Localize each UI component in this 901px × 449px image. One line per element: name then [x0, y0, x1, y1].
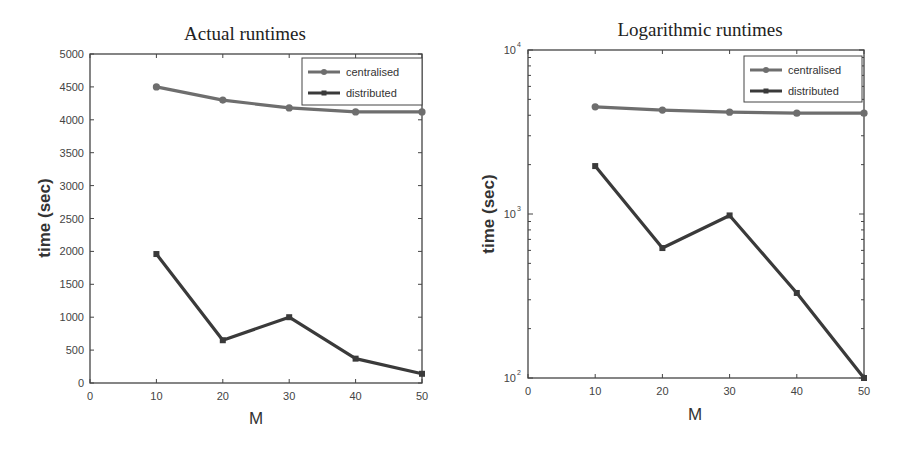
data-point [659, 245, 665, 251]
series-centralised [592, 103, 868, 116]
y-tick-exponent: 4 [517, 41, 521, 48]
x-tick-label: 0 [87, 390, 93, 402]
svg-text:centralised: centralised [346, 66, 399, 78]
y-tick-label: 0 [78, 377, 84, 389]
star-marker-icon [322, 91, 327, 96]
chart-title: Actual runtimes [184, 23, 306, 44]
y-tick-label: 1500 [60, 278, 84, 290]
data-point [286, 104, 293, 111]
x-axis-label: M [249, 409, 263, 428]
data-point [352, 108, 359, 115]
y-axis-label: time (sec) [35, 178, 54, 257]
data-point [726, 109, 733, 116]
star-marker-icon [764, 89, 769, 94]
x-tick-label: 30 [723, 385, 735, 397]
data-point [418, 108, 425, 115]
data-point [592, 163, 598, 169]
y-tick-label: 3000 [60, 180, 84, 192]
x-tick-label: 10 [150, 390, 162, 402]
data-point [860, 110, 867, 117]
data-point [153, 251, 159, 257]
data-point [286, 314, 292, 320]
series-distributed [592, 163, 867, 381]
y-axis-label: time (sec) [479, 174, 498, 253]
chart-title: Logarithmic runtimes [617, 19, 782, 40]
svg-text:distributed: distributed [346, 87, 397, 99]
y-tick-label: 2500 [60, 213, 84, 225]
x-tick-label: 50 [858, 385, 870, 397]
figure: Actual runtimes 010203040500500100015002… [0, 0, 901, 449]
data-point [419, 371, 425, 377]
data-point [219, 96, 226, 103]
x-axis-label: M [688, 405, 702, 424]
x-tick-label: 20 [217, 390, 229, 402]
svg-text:centralised: centralised [788, 64, 841, 76]
y-tick-label: 2000 [60, 245, 84, 257]
y-tick-label: 1000 [60, 311, 84, 323]
data-point [861, 375, 867, 381]
y-tick-label: 10 [504, 44, 516, 56]
x-tick-label: 40 [349, 390, 361, 402]
y-tick-label: 4500 [60, 81, 84, 93]
svg-text:distributed: distributed [788, 85, 839, 97]
legend: centralised distributed [744, 56, 862, 102]
y-tick-exponent: 2 [517, 369, 521, 376]
y-tick-label: 4000 [60, 114, 84, 126]
data-point [153, 83, 160, 90]
x-tick-label: 40 [791, 385, 803, 397]
y-tick-label: 3500 [60, 147, 84, 159]
data-point [794, 290, 800, 296]
panel-logarithmic-runtimes: Logarithmic runtimes 0102030405010210310… [479, 19, 870, 424]
x-tick-label: 0 [525, 385, 531, 397]
circle-marker-icon [321, 69, 327, 75]
data-point [793, 110, 800, 117]
series-distributed [153, 251, 425, 377]
y-tick-exponent: 3 [517, 205, 521, 212]
y-tick-label: 5000 [60, 48, 84, 60]
y-tick-label: 500 [66, 344, 84, 356]
panel-actual-runtimes: Actual runtimes 010203040500500100015002… [35, 23, 428, 428]
x-tick-label: 10 [589, 385, 601, 397]
data-point [353, 356, 359, 362]
data-point [659, 107, 666, 114]
y-tick-label: 10 [504, 372, 516, 384]
y-tick-label: 10 [504, 208, 516, 220]
data-point [220, 337, 226, 343]
data-point [727, 212, 733, 218]
x-tick-label: 50 [416, 390, 428, 402]
x-tick-label: 20 [656, 385, 668, 397]
data-point [592, 103, 599, 110]
legend: centralised distributed [302, 58, 422, 105]
x-tick-label: 30 [283, 390, 295, 402]
circle-marker-icon [763, 67, 769, 73]
